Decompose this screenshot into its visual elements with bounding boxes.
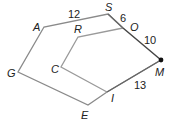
label-o: O — [130, 21, 139, 33]
inner-polygon-edges — [61, 28, 123, 92]
label-i: I — [111, 92, 114, 104]
point-m-dot — [159, 58, 164, 63]
label-a: A — [32, 21, 40, 33]
geometry-diagram: A S O M I E G R C 12 6 10 13 — [0, 0, 174, 122]
measure-so: 6 — [120, 12, 126, 24]
measure-om: 10 — [144, 34, 156, 46]
label-r: R — [74, 23, 82, 35]
label-c: C — [51, 63, 59, 75]
measure-as: 12 — [68, 8, 80, 20]
label-g: G — [7, 67, 16, 79]
label-s: S — [105, 1, 113, 13]
label-m: M — [155, 66, 165, 78]
label-e: E — [81, 109, 89, 121]
measure-mi: 13 — [134, 79, 146, 91]
